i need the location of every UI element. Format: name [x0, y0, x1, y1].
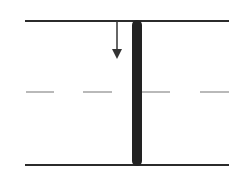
vertical-bar — [132, 20, 142, 166]
diagram-canvas — [0, 0, 242, 185]
down-arrow-icon — [112, 21, 122, 59]
diagram-svg — [0, 0, 242, 185]
